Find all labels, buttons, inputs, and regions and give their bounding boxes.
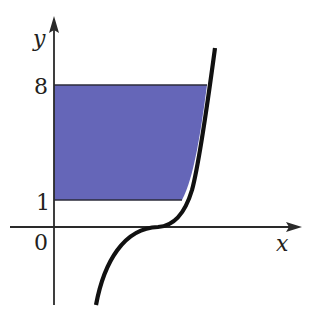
x-axis-label: x <box>276 231 289 256</box>
shaded-region <box>54 85 207 200</box>
graph: y 8 1 0 x <box>0 0 312 324</box>
origin-label: 0 <box>34 230 48 255</box>
y-axis-label: y <box>32 26 46 51</box>
tick-label-8: 8 <box>34 74 48 99</box>
tick-label-1: 1 <box>36 190 50 215</box>
